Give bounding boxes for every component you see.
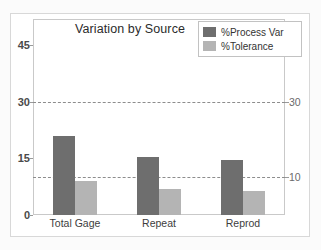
y-tick-mark-left bbox=[29, 215, 33, 216]
x-tick-label: Reprod bbox=[193, 217, 293, 229]
legend-item: %Process Var bbox=[203, 25, 297, 39]
bar bbox=[75, 181, 97, 215]
bar bbox=[53, 136, 75, 215]
legend-item: %Tolerance bbox=[203, 39, 297, 53]
legend-swatch-process-var bbox=[203, 27, 216, 37]
x-axis: Total GageRepeatReprod bbox=[33, 217, 285, 233]
y-axis-left: 0153045 bbox=[2, 19, 30, 215]
bar bbox=[243, 191, 265, 216]
bar bbox=[221, 160, 243, 215]
y-tick-mark-left bbox=[29, 158, 33, 159]
y-tick-mark-right bbox=[285, 102, 289, 103]
y-tick-label-right: 10 bbox=[289, 171, 301, 183]
bar bbox=[137, 157, 159, 215]
legend-swatch-tolerance bbox=[203, 41, 216, 51]
y-tick-mark-left bbox=[29, 102, 33, 103]
chart-legend: %Process Var %Tolerance bbox=[198, 21, 302, 57]
chart-title: Variation by Source bbox=[60, 22, 200, 36]
legend-label-process-var: %Process Var bbox=[221, 27, 284, 38]
y-tick-label-right: 30 bbox=[289, 96, 301, 108]
chart-figure: 0153045 1030 Variation by Source %Proces… bbox=[0, 0, 321, 250]
bar bbox=[159, 189, 181, 215]
y-tick-mark-right bbox=[285, 177, 289, 178]
y-tick-mark-left bbox=[29, 45, 33, 46]
y-tick-label-left: 30 bbox=[6, 96, 30, 108]
legend-label-tolerance: %Tolerance bbox=[221, 41, 273, 52]
y-tick-label-left: 15 bbox=[6, 152, 30, 164]
y-tick-label-left: 45 bbox=[6, 39, 30, 51]
gridline bbox=[33, 102, 285, 103]
